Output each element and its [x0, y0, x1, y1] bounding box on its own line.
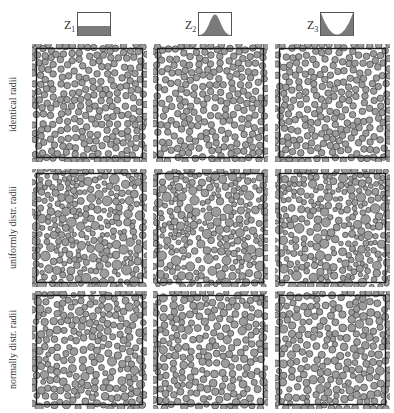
column-header-z1: Z1: [64, 2, 124, 36]
column-header-z2: Z2: [185, 2, 245, 36]
panel-identical-z2: [153, 44, 268, 162]
row-label-identical-radii: identical radii: [2, 45, 22, 163]
panel-uniform-z2: [153, 169, 268, 287]
circle-packing: [275, 169, 390, 287]
row-label-normal-radii: normally distr. radii: [2, 292, 22, 407]
circle-packing: [153, 291, 268, 409]
column-label-z3: Z3: [307, 19, 318, 36]
column-header-z3: Z3: [307, 2, 367, 36]
panel-identical-z3: [275, 44, 390, 162]
uniform-distribution-icon: [77, 12, 111, 36]
panel-uniform-z1: [32, 169, 147, 287]
panel-uniform-z3: [275, 169, 390, 287]
bell-distribution-icon: [198, 12, 232, 36]
panel-normal-z3: [275, 291, 390, 409]
circle-packing: [32, 291, 147, 409]
column-label-z1: Z1: [64, 19, 75, 36]
panel-identical-z1: [32, 44, 147, 162]
circle-packing: [275, 291, 390, 409]
column-label-z2: Z2: [185, 19, 196, 36]
circle-packing: [153, 44, 268, 162]
panel-normal-z1: [32, 291, 147, 409]
circle-packing: [153, 169, 268, 287]
panel-normal-z2: [153, 291, 268, 409]
circle-packing: [275, 44, 390, 162]
row-label-uniform-radii: uniformly distr. radii: [2, 170, 22, 285]
circle-packing: [32, 169, 147, 287]
circle-packing: [32, 44, 147, 162]
u-distribution-icon: [320, 12, 354, 36]
